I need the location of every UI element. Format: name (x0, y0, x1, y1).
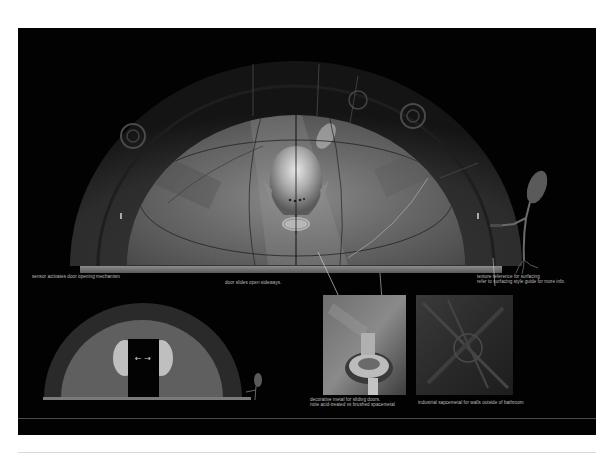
concept-sheet-panel: ← → sensor activates door opening mechan… (18, 28, 596, 435)
caption-decorative-line2: note acid-treated vs brushed spacemetal (310, 402, 395, 407)
industrial-metal-tile (416, 295, 513, 395)
dome-door-icon: ← → (18, 28, 596, 435)
page-bottom-line (18, 452, 596, 453)
caption-texture-ref: texture reference for surfacing refer to… (477, 274, 565, 285)
small-dome-door-icon: ← → (43, 303, 262, 400)
caption-decorative: decorative metal for sliding doors. note… (310, 397, 395, 408)
slide-arrows: ← → (135, 354, 151, 363)
caption-texture-ref-line2: refer to surfacing style guide for more … (477, 279, 565, 284)
caption-sensor: sensor activates door opening mechanism (32, 274, 120, 279)
caption-industrial: industrial sapcemetal for walls outside … (418, 400, 524, 405)
panel-divider (18, 418, 596, 419)
decorative-metal-tile (323, 295, 406, 395)
caption-door-slides: door slides open sideways. (225, 280, 281, 285)
